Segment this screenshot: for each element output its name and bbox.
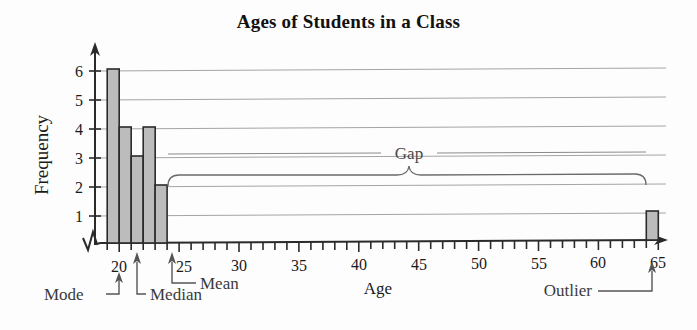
gridline-1 (95, 213, 666, 216)
gridline-6 (95, 68, 666, 71)
bar-21-22 (131, 156, 143, 243)
gridline-3 (95, 155, 666, 158)
x-tick-label-35: 35 (291, 257, 307, 274)
y-tick-label-3: 3 (75, 150, 83, 167)
mode-annotation: Mode (44, 272, 123, 304)
bar-64-65-outlier (646, 211, 658, 240)
median-leader-line (137, 262, 146, 294)
y-tick-label-5: 5 (75, 92, 83, 109)
gap-rule-right (437, 152, 646, 153)
y-axis: 6 5 4 3 2 1 (75, 42, 101, 245)
x-tick-label-55: 55 (531, 255, 547, 272)
x-tick-label-50: 50 (471, 255, 487, 272)
x-axis-title: Age (364, 279, 392, 298)
mode-label: Mode (44, 285, 84, 304)
gridlines (95, 68, 666, 216)
gridline-2 (95, 184, 666, 187)
x-tick-label-30: 30 (231, 257, 247, 274)
outlier-label: Outlier (544, 281, 592, 300)
x-axis: 20 25 30 35 40 45 50 55 60 65 (83, 232, 668, 275)
bar-19-20 (107, 69, 119, 243)
gap-rule-left (168, 153, 381, 154)
gap-label: Gap (395, 144, 423, 163)
median-annotation: Median (133, 252, 202, 304)
x-axis-line (100, 240, 660, 243)
y-axis-title: Frequency (31, 114, 52, 195)
x-axis-break-zigzag (83, 232, 100, 250)
bar-22-23 (143, 127, 155, 243)
median-label: Median (150, 285, 202, 304)
histogram-bars (107, 69, 658, 243)
chart-figure: Ages of Students in a Class 6 5 4 3 2 (0, 0, 697, 330)
y-tick-label-2: 2 (75, 179, 83, 196)
mode-leader-line (106, 280, 119, 294)
x-tick-label-40: 40 (351, 256, 367, 273)
y-tick-label-4: 4 (75, 121, 83, 138)
y-tick-label-1: 1 (75, 208, 83, 225)
gridline-4 (95, 126, 666, 129)
gap-curly-brace (168, 166, 646, 186)
gridline-5 (95, 97, 666, 100)
y-tick-label-6: 6 (75, 63, 83, 80)
mean-label: Mean (200, 274, 239, 293)
x-tick-label-25: 25 (176, 258, 192, 275)
x-tick-label-45: 45 (411, 256, 427, 273)
outlier-leader-line (598, 271, 652, 291)
x-tick-label-60: 60 (590, 254, 606, 271)
bar-23-24 (155, 185, 167, 243)
gap-annotation: Gap (168, 144, 646, 186)
chart-plot-area: 6 5 4 3 2 1 Frequency (0, 0, 697, 330)
bar-20-21 (119, 127, 131, 243)
